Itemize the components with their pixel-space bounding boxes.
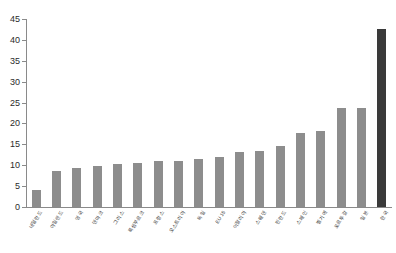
bar-프랑스[interactable]	[154, 161, 163, 207]
bar-slot	[372, 19, 392, 207]
y-tick-label: 0	[15, 203, 20, 212]
bar-series	[26, 19, 392, 207]
bar-룩셈부르크[interactable]	[133, 163, 142, 207]
y-tick-label: 20	[10, 119, 20, 128]
x-axis-label-한국: 한국	[380, 210, 390, 221]
y-tick-label: 35	[10, 56, 20, 65]
x-axis-label-오스트리아: 오스트리아	[168, 210, 185, 234]
bar-덴마크[interactable]	[93, 166, 102, 207]
bar-slot	[87, 19, 107, 207]
x-axis-labels: 네덜란드아일랜드영국덴마크그리스룩셈부르크프랑스오스트리아독일EU 15이탈리아…	[26, 208, 392, 253]
bar-slot	[209, 19, 229, 207]
bar-스웨덴[interactable]	[255, 151, 264, 207]
bar-한국[interactable]	[377, 29, 386, 207]
bar-일본[interactable]	[357, 108, 366, 207]
bar-그리스[interactable]	[113, 164, 122, 207]
bar-slot	[128, 19, 148, 207]
x-axis-label-스웨덴: 스웨덴	[255, 210, 267, 225]
bar-slot	[250, 19, 270, 207]
x-axis-label-포르투갈: 포르투갈	[334, 210, 349, 230]
y-tick-label: 45	[10, 15, 20, 24]
x-axis-label-EU 15: EU 15	[215, 210, 227, 224]
y-tick-label: 5	[15, 182, 20, 191]
bar-포르투갈[interactable]	[337, 108, 346, 207]
y-tick-label: 15	[10, 140, 20, 149]
bar-slot	[290, 19, 310, 207]
x-axis-label-그리스: 그리스	[113, 210, 125, 225]
x-axis-label-덴마크: 덴마크	[92, 210, 104, 225]
x-axis-label-아일랜드: 아일랜드	[49, 210, 64, 230]
x-axis-label-네덜란드: 네덜란드	[29, 210, 44, 230]
bar-slot	[46, 19, 66, 207]
bar-slot	[168, 19, 188, 207]
y-tick-label: 40	[10, 35, 20, 44]
bar-chart: 051015202530354045 네덜란드아일랜드영국덴마크그리스룩셈부르크…	[0, 0, 396, 253]
bar-slot	[67, 19, 87, 207]
y-tick-label: 10	[10, 161, 20, 170]
x-axis-label-스페인: 스페인	[296, 210, 308, 225]
bar-스페인[interactable]	[296, 133, 305, 207]
bar-이탈리아[interactable]	[235, 152, 244, 207]
bar-EU 15[interactable]	[215, 157, 224, 207]
bar-slot	[311, 19, 331, 207]
x-axis-label-일본: 일본	[359, 210, 369, 221]
bar-slot	[351, 19, 371, 207]
x-axis-label-영국: 영국	[75, 210, 85, 221]
bar-slot	[26, 19, 46, 207]
bar-독일[interactable]	[194, 159, 203, 207]
bar-오스트리아[interactable]	[174, 161, 183, 207]
x-axis-label-핀란드: 핀란드	[275, 210, 287, 225]
bar-아일랜드[interactable]	[52, 171, 61, 207]
bar-slot	[189, 19, 209, 207]
y-tick-label: 25	[10, 98, 20, 107]
bar-핀란드[interactable]	[276, 146, 285, 207]
bar-slot	[270, 19, 290, 207]
x-axis-label-독일: 독일	[197, 210, 207, 221]
x-axis-label-프랑스: 프랑스	[153, 210, 165, 225]
bar-slot	[148, 19, 168, 207]
y-tick-label: 30	[10, 77, 20, 86]
bar-slot	[107, 19, 127, 207]
bar-벨기에[interactable]	[316, 131, 325, 207]
bar-slot	[229, 19, 249, 207]
bar-영국[interactable]	[72, 168, 81, 207]
x-axis-label-룩셈부르크: 룩셈부르크	[128, 210, 145, 234]
x-axis-label-벨기에: 벨기에	[316, 210, 328, 225]
bar-네덜란드[interactable]	[32, 190, 41, 207]
x-axis-label-이탈리아: 이탈리아	[232, 210, 247, 230]
plot-area: 051015202530354045	[26, 19, 392, 207]
bar-slot	[331, 19, 351, 207]
